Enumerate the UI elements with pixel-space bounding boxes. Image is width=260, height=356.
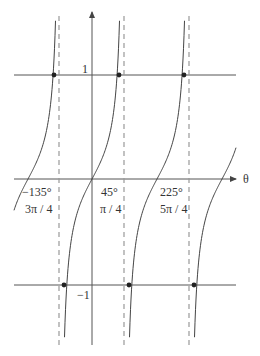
x-label-deg-1: −135° (22, 186, 52, 198)
x-label-rad-1: 3π / 4 (25, 203, 52, 215)
y-tick-1: 1 (82, 63, 88, 75)
x-label-deg-2: 45° (101, 186, 118, 198)
theta-label: θ (243, 173, 249, 185)
tan-branch-1 (14, 21, 56, 211)
x-label-deg-3: 225° (160, 186, 183, 198)
x-label-rad-3: 5π / 4 (160, 203, 187, 215)
x-label-rad-2: π / 4 (100, 203, 121, 215)
tan-branch-4 (195, 148, 237, 338)
tangent-graph (0, 0, 260, 356)
y-tick-neg1: −1 (77, 289, 90, 301)
